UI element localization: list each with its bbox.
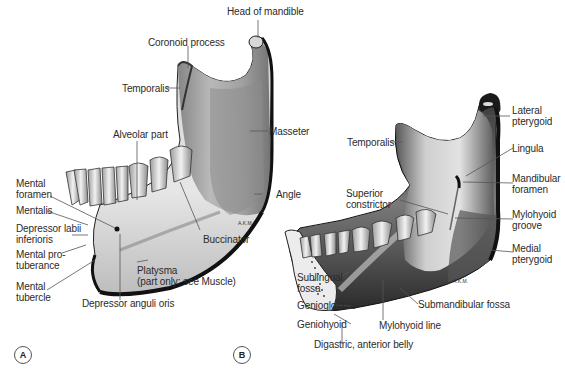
label-platysma: Platysma (part only: see Muscle) — [137, 265, 236, 287]
label-mental-tubercle: Mental tubercle — [16, 281, 51, 303]
label-geniohyoid: Geniohyoid — [297, 319, 347, 330]
label-head-of-mandible: Head of mandible — [227, 6, 304, 17]
label-submandibular-fossa: Submandibular fossa — [418, 299, 510, 310]
panel-marker-b: B — [233, 346, 251, 364]
label-superior-constrictor: Superior constrictor — [346, 188, 391, 210]
svg-text:A.K.M.: A.K.M. — [238, 220, 253, 226]
label-mentalis: Mentalis — [16, 205, 52, 216]
label-lingula: Lingula — [512, 143, 544, 154]
label-depressor-labii-inferioris: Depressor labii inferioris — [16, 223, 81, 245]
mandible-figure: A.K.M. — [0, 0, 565, 372]
label-mylohyoid-line: Mylohyoid line — [379, 320, 441, 331]
label-temporalis-b: Temporalis — [347, 137, 394, 148]
label-mandibular-foramen: Mandibular foramen — [512, 173, 560, 195]
label-alveolar-part: Alveolar part — [113, 129, 168, 140]
label-mylohyoid-groove: Mylohyoid groove — [512, 209, 556, 231]
label-medial-pterygoid: Medial pterygoid — [512, 243, 552, 265]
svg-text:A.K.M.: A.K.M. — [453, 278, 468, 284]
panel-marker-a: A — [14, 346, 32, 364]
label-coronoid-process: Coronoid process — [148, 37, 225, 48]
label-angle: Angle — [276, 189, 301, 200]
label-depressor-anguli-oris: Depressor anguli oris — [82, 298, 174, 309]
label-buccinator: Buccinator — [203, 234, 249, 245]
label-masseter: Masseter — [269, 126, 309, 137]
label-mental-protuberance: Mental pro- tuberance — [16, 249, 65, 271]
label-genioglossus: Genioglossus — [297, 300, 356, 311]
label-lateral-pterygoid: Lateral pterygoid — [512, 105, 552, 127]
label-mental-foramen: Mental foramen — [16, 178, 52, 200]
mandible-illustration: A.K.M. — [0, 0, 565, 372]
label-digastric-anterior-belly: Digastric, anterior belly — [314, 339, 413, 350]
label-temporalis-a: Temporalis — [122, 83, 169, 94]
mandible-lateral-view: A.K.M. — [66, 36, 272, 294]
label-sublingual-fossa: Sublingual fossa — [297, 272, 343, 294]
